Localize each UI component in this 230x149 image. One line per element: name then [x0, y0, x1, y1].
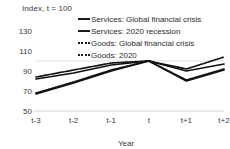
x-axis-tick-label: t-1	[107, 116, 117, 125]
data-series-group	[36, 57, 224, 94]
y-axis-tick-label: 50	[23, 107, 32, 116]
plot-area: 507090110130 t-3t-2t-1tt+1t+2 Year	[0, 0, 230, 149]
chart-container: Index, t = 100 Services: Global financia…	[0, 0, 230, 149]
y-axis-tick-label: 90	[23, 67, 32, 76]
x-axis-tick-label: t-3	[31, 116, 41, 125]
x-axis-label: Year	[118, 139, 135, 148]
x-axis-tick-label: t+1	[181, 116, 193, 125]
chart-svg: 507090110130 t-3t-2t-1tt+1t+2 Year	[0, 0, 230, 149]
y-axis-ticks: 507090110130	[19, 27, 33, 116]
x-axis-tick-label: t+2	[218, 116, 230, 125]
x-axis-ticks: t-3t-2t-1tt+1t+2	[31, 116, 230, 125]
y-axis-tick-label: 110	[19, 47, 32, 56]
x-axis-tick-label: t-2	[69, 116, 79, 125]
series-line-0	[36, 61, 224, 79]
y-axis-tick-label: 130	[19, 27, 33, 36]
y-axis-tick-label: 70	[23, 87, 32, 96]
x-axis-tick-label: t	[148, 116, 151, 125]
